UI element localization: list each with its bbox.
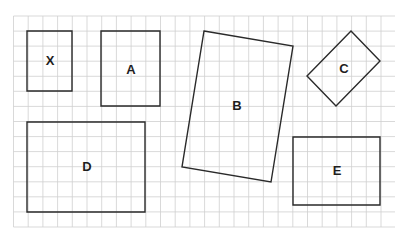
shape-label-b: B: [232, 98, 241, 113]
shape-label-d: D: [82, 159, 91, 174]
shape-label-c: C: [339, 61, 349, 76]
shape-label-a: A: [126, 62, 136, 77]
shape-a: A: [101, 31, 160, 106]
diagram-canvas: XABCDE: [0, 0, 407, 236]
shape-c: C: [307, 31, 380, 106]
shape-label-x: X: [46, 53, 55, 68]
shape-label-e: E: [333, 163, 342, 178]
